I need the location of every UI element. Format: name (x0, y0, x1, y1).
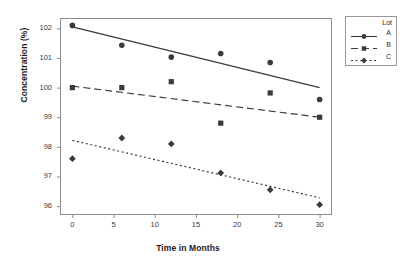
legend-entry-c[interactable]: C (346, 52, 396, 63)
legend-entry-a[interactable]: A (346, 28, 396, 39)
y-tick-label: 96 (26, 201, 52, 210)
data-point-b (119, 85, 124, 90)
x-tick-label: 15 (184, 220, 208, 229)
y-tick-label: 99 (26, 112, 52, 121)
legend: Lot ABC (345, 16, 397, 66)
data-point-a (119, 42, 125, 48)
legend-marker-b-icon (350, 40, 378, 51)
data-point-b (70, 85, 75, 90)
data-point-a (267, 60, 273, 66)
x-tick-label: 10 (143, 220, 167, 229)
y-tick-label: 98 (26, 142, 52, 151)
data-point-a (218, 51, 224, 57)
x-tick-label: 20 (225, 220, 249, 229)
x-tick-label: 5 (102, 220, 126, 229)
data-point-a (168, 54, 174, 60)
data-point-b (317, 115, 322, 120)
legend-label-b: B (386, 41, 391, 48)
data-point-b (169, 79, 174, 84)
legend-entry-b[interactable]: B (346, 40, 396, 51)
data-point-a (317, 97, 323, 103)
legend-title: Lot (382, 19, 392, 26)
x-tick-label: 30 (308, 220, 332, 229)
data-point-a (70, 23, 76, 29)
legend-label-c: C (386, 53, 391, 60)
data-point-b (218, 121, 223, 126)
data-point-b (268, 90, 273, 95)
legend-marker-c-icon (350, 52, 378, 63)
legend-label-a: A (386, 29, 391, 36)
y-tick-label: 101 (26, 53, 52, 62)
x-tick-label: 25 (266, 220, 290, 229)
x-tick-label: 0 (60, 220, 84, 229)
legend-marker-a-icon (350, 28, 378, 39)
y-tick-label: 97 (26, 171, 52, 180)
x-axis-title: Time in Months (60, 243, 316, 253)
y-tick-label: 100 (26, 83, 52, 92)
plot-frame (61, 19, 332, 215)
scatter-chart: Concentration (%) Time in Months 9697989… (0, 0, 403, 269)
y-tick-label: 102 (26, 23, 52, 32)
